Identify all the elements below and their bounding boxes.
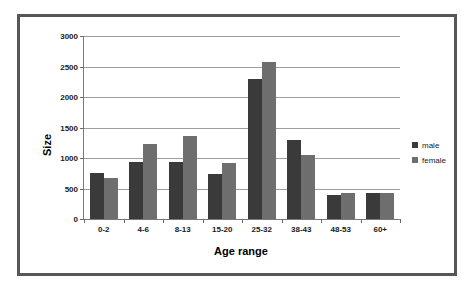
legend-swatch-female [412, 157, 418, 163]
y-tick-label: 500 [65, 184, 78, 193]
y-tick-label: 0 [74, 215, 78, 224]
x-tick-label: 38-43 [282, 225, 322, 234]
legend-swatch-male [412, 142, 418, 148]
bar-female-48-53[interactable] [341, 193, 355, 219]
x-tick-label: 25-32 [242, 225, 282, 234]
chart-legend: malefemale [412, 139, 446, 169]
y-tick-label: 1500 [60, 123, 78, 132]
x-tick-mark [321, 219, 322, 223]
bar-female-0-2[interactable] [104, 178, 118, 219]
x-tick-mark [361, 219, 362, 223]
bar-group: 25-32 [242, 36, 282, 219]
x-tick-label: 8-13 [163, 225, 203, 234]
bar-male-8-13[interactable] [169, 162, 183, 219]
bar-male-25-32[interactable] [248, 79, 262, 219]
bar-female-15-20[interactable] [222, 163, 236, 219]
bars-layer: 0-24-68-1315-2025-3238-4348-5360+ [84, 36, 400, 219]
bar-male-48-53[interactable] [327, 195, 341, 219]
bar-male-38-43[interactable] [287, 140, 301, 219]
x-tick-label: 0-2 [84, 225, 124, 234]
x-axis-title: Age range [83, 245, 399, 257]
legend-label: female [422, 156, 446, 165]
y-tick-label: 1000 [60, 154, 78, 163]
legend-label: male [422, 141, 439, 150]
bar-group: 8-13 [163, 36, 203, 219]
x-tick-mark [124, 219, 125, 223]
bar-female-8-13[interactable] [183, 136, 197, 219]
bar-male-15-20[interactable] [208, 174, 222, 219]
y-tick-label: 2000 [60, 93, 78, 102]
x-tick-mark [282, 219, 283, 223]
y-tick-label: 3000 [60, 32, 78, 41]
bar-male-4-6[interactable] [129, 162, 143, 219]
bar-group: 38-43 [282, 36, 322, 219]
bar-female-25-32[interactable] [262, 62, 276, 219]
bar-group: 4-6 [124, 36, 164, 219]
x-tick-mark [203, 219, 204, 223]
x-tick-label: 15-20 [203, 225, 243, 234]
bar-male-0-2[interactable] [90, 173, 104, 219]
x-tick-mark [163, 219, 164, 223]
bar-group: 0-2 [84, 36, 124, 219]
bar-group: 48-53 [321, 36, 361, 219]
bar-female-38-43[interactable] [301, 155, 315, 219]
bar-female-4-6[interactable] [143, 144, 157, 219]
x-tick-label: 60+ [361, 225, 401, 234]
plot-area: 050010001500200025003000 0-24-68-1315-20… [83, 36, 400, 220]
x-tick-label: 4-6 [124, 225, 164, 234]
legend-entry-female[interactable]: female [412, 154, 446, 166]
y-axis-title: Size [41, 134, 53, 156]
bar-male-60+[interactable] [366, 193, 380, 219]
chart-canvas: Size 050010001500200025003000 0-24-68-13… [20, 17, 454, 273]
x-tick-label: 48-53 [321, 225, 361, 234]
x-tick-mark [84, 219, 85, 223]
y-tick-label: 2500 [60, 62, 78, 71]
x-tick-mark [242, 219, 243, 223]
x-tick-mark [400, 219, 401, 223]
bar-female-60+[interactable] [380, 193, 394, 219]
bar-group: 60+ [361, 36, 401, 219]
legend-entry-male[interactable]: male [412, 139, 446, 151]
bar-group: 15-20 [203, 36, 243, 219]
chart-frame: Size 050010001500200025003000 0-24-68-13… [17, 14, 457, 276]
